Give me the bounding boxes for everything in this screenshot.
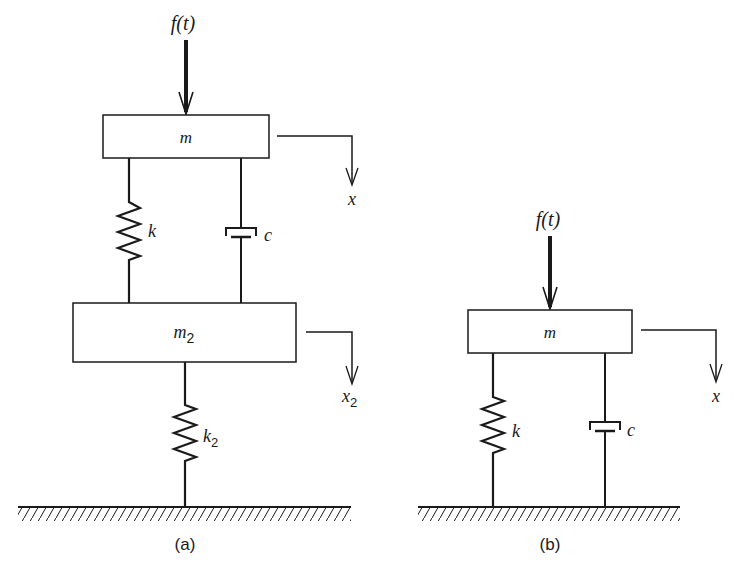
force-label-b: f(t)	[536, 208, 561, 231]
damper-c-a: c	[226, 158, 272, 303]
force-arrow-a: f(t)	[171, 12, 196, 114]
ground-b	[418, 507, 680, 521]
damper-label-b: c	[627, 420, 635, 440]
figure-b: f(t) m x k c (b)	[418, 208, 722, 554]
spring-k-a: k	[118, 158, 157, 303]
spring-label-b: k	[512, 421, 521, 441]
damper-c-b: c	[590, 353, 635, 507]
spring-top-label: k	[148, 221, 157, 241]
disp-label-b: x	[711, 386, 720, 406]
figure-a: f(t) m x k c	[18, 12, 358, 554]
mass-bottom-a: m2	[73, 303, 296, 362]
disp-top-label: x	[347, 189, 356, 209]
spring-bottom-label: k2	[203, 426, 218, 450]
spring-k2-a: k2	[174, 362, 218, 506]
ground-a	[18, 507, 351, 521]
caption-a: (a)	[175, 535, 196, 554]
force-arrow-b: f(t)	[536, 208, 561, 309]
mass-b: m	[468, 310, 632, 353]
mass-top-label: m	[180, 128, 192, 147]
mass-top-a: m	[103, 115, 269, 158]
diagram-canvas: f(t) m x k c	[0, 0, 734, 564]
spring-k-b: k	[482, 353, 521, 507]
mass-label-b: m	[544, 323, 556, 342]
disp-bottom-label: x2	[341, 386, 357, 410]
damper-label-a: c	[264, 225, 272, 245]
force-label-a: f(t)	[171, 12, 196, 35]
displacement-arrow-x2-a: x2	[306, 332, 358, 410]
displacement-arrow-x-a: x	[277, 136, 358, 209]
displacement-arrow-x-b: x	[641, 330, 722, 406]
caption-b: (b)	[540, 535, 561, 554]
